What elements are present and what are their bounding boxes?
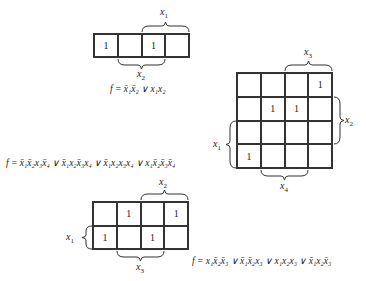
map1-cell: [165, 34, 189, 57]
map3-cell: 1: [93, 226, 117, 250]
map1-cell: 1: [94, 34, 118, 57]
map2-cell: 1: [285, 97, 309, 121]
map2-cell: [285, 121, 309, 145]
map3-top-brace: [140, 190, 190, 202]
map3-label-x1: x1: [66, 231, 74, 245]
map2-equation: f = x̄₁x̄₂x₃x̄₄ ∨ x̄₁x₂x̄₃x₄ ∨ x̄₁x₂x₃x₄…: [6, 157, 175, 168]
map2-label-x2: x2: [345, 114, 353, 128]
map2-cell: [261, 121, 285, 145]
map1-cell: [118, 34, 142, 57]
map2-label-x4: x4: [280, 180, 288, 194]
map3-cell: [93, 202, 117, 226]
map3-cell: [141, 202, 165, 226]
map3-cell: [117, 226, 141, 250]
map2-cell: [237, 97, 261, 121]
map2-cell: 1: [308, 73, 332, 97]
map2-cell: 1: [261, 97, 285, 121]
karnaugh-map-3: 1 1 1 1: [92, 201, 189, 250]
map3-cell: [164, 226, 188, 250]
map3-cell: 1: [164, 202, 188, 226]
map1-label-x2: x2: [137, 68, 145, 82]
map2-cell: [237, 73, 261, 97]
map2-cell: 1: [237, 144, 261, 168]
karnaugh-map-2: 1 1 1 1: [236, 72, 333, 169]
map2-label-x3: x3: [304, 46, 312, 60]
map1-top-brace: [141, 22, 191, 34]
karnaugh-map-1: 1 1: [93, 33, 190, 58]
map2-right-brace: [333, 96, 345, 146]
map3-equation: f = x₁x̄₂x̄₃ ∨ x̄₁x̄₂x₃ ∨ x₁x₂x₃ ∨ x̄₁x₂…: [192, 255, 331, 266]
map2-label-x1: x1: [213, 138, 221, 152]
map2-left-brace: [225, 120, 237, 170]
map3-label-x3: x3: [136, 261, 144, 275]
map2-cell: [308, 144, 332, 168]
map2-cell: [308, 121, 332, 145]
map2-cell: [285, 73, 309, 97]
map2-cell: [237, 121, 261, 145]
map3-cell: 1: [141, 226, 165, 250]
map2-cell: [308, 97, 332, 121]
map3-left-brace: [81, 225, 93, 251]
map1-label-x1: x1: [160, 6, 168, 20]
map2-cell: [285, 144, 309, 168]
map1-equation: f = x̄₁x̄₂ ∨ x₁x₂: [110, 83, 166, 94]
map3-label-x2: x2: [159, 176, 167, 190]
map2-top-brace: [284, 61, 334, 73]
map2-cell: [261, 73, 285, 97]
map3-cell: 1: [117, 202, 141, 226]
map1-cell: 1: [142, 34, 166, 57]
map2-cell: [261, 144, 285, 168]
